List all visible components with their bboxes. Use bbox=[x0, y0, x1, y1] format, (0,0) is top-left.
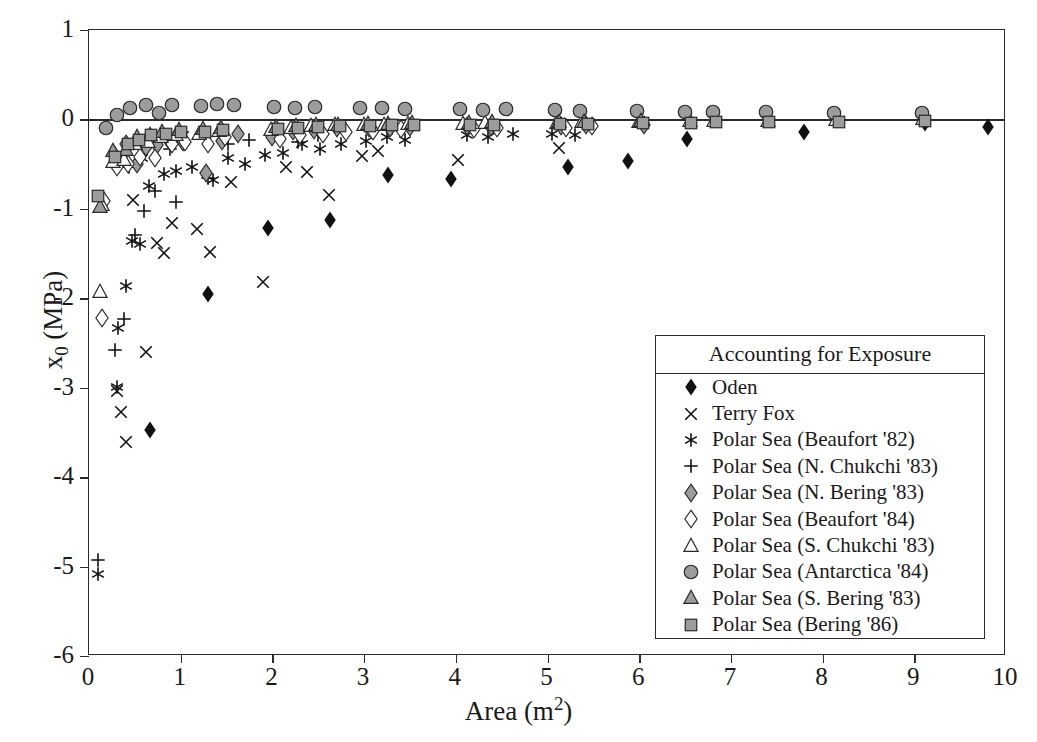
data-point bbox=[579, 113, 605, 143]
data-point bbox=[307, 136, 333, 166]
data-point bbox=[912, 110, 938, 140]
filled-square-gray-icon bbox=[670, 612, 712, 638]
data-point bbox=[470, 97, 496, 127]
data-point bbox=[573, 112, 599, 142]
data-point bbox=[102, 337, 128, 367]
data-point bbox=[539, 121, 565, 151]
data-point bbox=[153, 121, 179, 151]
data-point bbox=[283, 113, 309, 143]
data-point bbox=[184, 216, 210, 246]
y-axis-title-unit: (MPa) bbox=[38, 271, 68, 347]
data-point bbox=[310, 121, 336, 151]
x-tick bbox=[639, 654, 640, 663]
x-axis-title-text: Area (m bbox=[465, 696, 554, 726]
data-point bbox=[823, 107, 849, 137]
data-point bbox=[375, 162, 401, 192]
data-point bbox=[454, 113, 480, 143]
data-point bbox=[129, 145, 155, 175]
y-axis-title-var: x bbox=[38, 356, 68, 370]
data-point bbox=[399, 110, 425, 140]
x-tick-label: 7 bbox=[724, 663, 737, 691]
data-point bbox=[703, 109, 729, 139]
data-point bbox=[163, 122, 189, 152]
x-tick-label: 9 bbox=[907, 663, 920, 691]
data-point bbox=[542, 97, 568, 127]
data-point bbox=[209, 128, 235, 158]
data-point bbox=[454, 122, 480, 152]
y-tick bbox=[80, 119, 89, 120]
y-tick-label: -1 bbox=[14, 194, 74, 222]
x-tick bbox=[272, 654, 273, 663]
legend-title: Accounting for Exposure bbox=[656, 336, 984, 374]
data-point bbox=[678, 110, 704, 140]
data-point bbox=[375, 111, 401, 141]
data-point bbox=[624, 98, 650, 128]
y-tick bbox=[80, 477, 89, 478]
legend-item: Oden bbox=[656, 374, 984, 400]
data-point bbox=[111, 147, 137, 177]
data-point bbox=[395, 111, 421, 141]
data-point bbox=[212, 124, 238, 154]
data-point bbox=[157, 136, 183, 166]
legend-item-label: Polar Sea (S. Chukchi '83) bbox=[712, 533, 935, 558]
data-point bbox=[159, 92, 185, 122]
y-tick bbox=[80, 209, 89, 210]
data-point bbox=[151, 240, 177, 270]
legend-item-label: Polar Sea (S. Bering '83) bbox=[712, 586, 921, 611]
legend-item-label: Polar Sea (Beaufort '82) bbox=[712, 427, 915, 452]
filled-circle-gray-icon bbox=[670, 559, 712, 585]
data-point bbox=[142, 145, 168, 175]
data-point bbox=[392, 96, 418, 126]
open-diamond-icon bbox=[670, 506, 712, 532]
data-point bbox=[317, 207, 343, 237]
data-point bbox=[547, 111, 573, 141]
data-point bbox=[672, 99, 698, 129]
data-point bbox=[218, 169, 244, 199]
data-point bbox=[630, 110, 656, 140]
x-tick bbox=[914, 654, 915, 663]
x-tick-label: 3 bbox=[357, 663, 370, 691]
y-axis-title: x0 (MPa) bbox=[38, 271, 73, 370]
x-tick-label: 10 bbox=[993, 663, 1018, 691]
data-point bbox=[146, 100, 172, 130]
data-point bbox=[221, 92, 247, 122]
data-point bbox=[144, 230, 170, 260]
data-point bbox=[447, 96, 473, 126]
data-point bbox=[500, 121, 526, 151]
data-point bbox=[168, 127, 194, 157]
data-point bbox=[115, 131, 141, 161]
data-point bbox=[166, 117, 192, 147]
data-point bbox=[325, 112, 351, 142]
data-point bbox=[193, 160, 219, 190]
data-point bbox=[445, 147, 471, 177]
data-point bbox=[170, 124, 196, 154]
data-point bbox=[104, 102, 130, 132]
data-point bbox=[305, 122, 331, 152]
data-point bbox=[546, 109, 572, 139]
y-tick bbox=[80, 388, 89, 389]
data-point bbox=[457, 112, 483, 142]
legend-item: Polar Sea (N. Bering '83) bbox=[656, 480, 984, 506]
data-point bbox=[791, 119, 817, 149]
y-tick-label: 0 bbox=[14, 104, 74, 132]
data-point bbox=[100, 149, 126, 179]
data-point bbox=[215, 145, 241, 175]
plus-icon bbox=[670, 453, 712, 479]
legend-item: Polar Sea (Antarctica '84) bbox=[656, 559, 984, 585]
data-point bbox=[280, 118, 306, 148]
legend-item: Polar Sea (Beaufort '82) bbox=[656, 427, 984, 453]
data-point bbox=[615, 148, 641, 178]
data-point bbox=[195, 165, 221, 195]
data-point bbox=[456, 110, 482, 140]
y-tick bbox=[80, 656, 89, 657]
data-point bbox=[122, 131, 148, 161]
data-point bbox=[322, 112, 348, 142]
x-tick-label: 2 bbox=[265, 663, 278, 691]
data-point bbox=[267, 126, 293, 156]
data-point bbox=[113, 131, 139, 161]
data-point bbox=[374, 124, 400, 154]
data-point bbox=[753, 99, 779, 129]
data-point bbox=[479, 109, 505, 139]
data-point bbox=[493, 96, 519, 126]
data-point bbox=[87, 194, 113, 224]
